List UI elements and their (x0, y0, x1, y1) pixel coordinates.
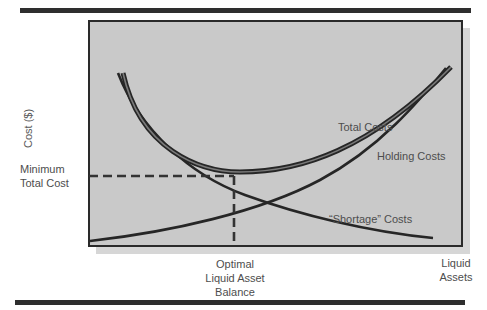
optimal-line1: Optimal (196, 257, 274, 271)
x-axis-label-line2: Assets (434, 270, 478, 284)
optimal-line2: Liquid Asset (196, 271, 274, 285)
bottom-rule (15, 300, 465, 305)
optimal-line3: Balance (196, 285, 274, 299)
x-axis-label: Liquid Assets (434, 256, 478, 284)
minimum-total-cost-label: Minimum Total Cost (20, 162, 69, 190)
x-axis-label-line1: Liquid (434, 256, 478, 270)
minimum-total-cost-line2: Total Cost (20, 176, 69, 190)
holding-costs-label: Holding Costs (377, 149, 445, 163)
optimal-liquid-asset-balance-label: Optimal Liquid Asset Balance (196, 257, 274, 299)
total-costs-label: Total Costs (338, 120, 392, 134)
y-axis-label: Cost ($) (22, 109, 34, 148)
shortage-costs-label: “Shortage” Costs (329, 212, 412, 226)
minimum-total-cost-line1: Minimum (20, 162, 69, 176)
